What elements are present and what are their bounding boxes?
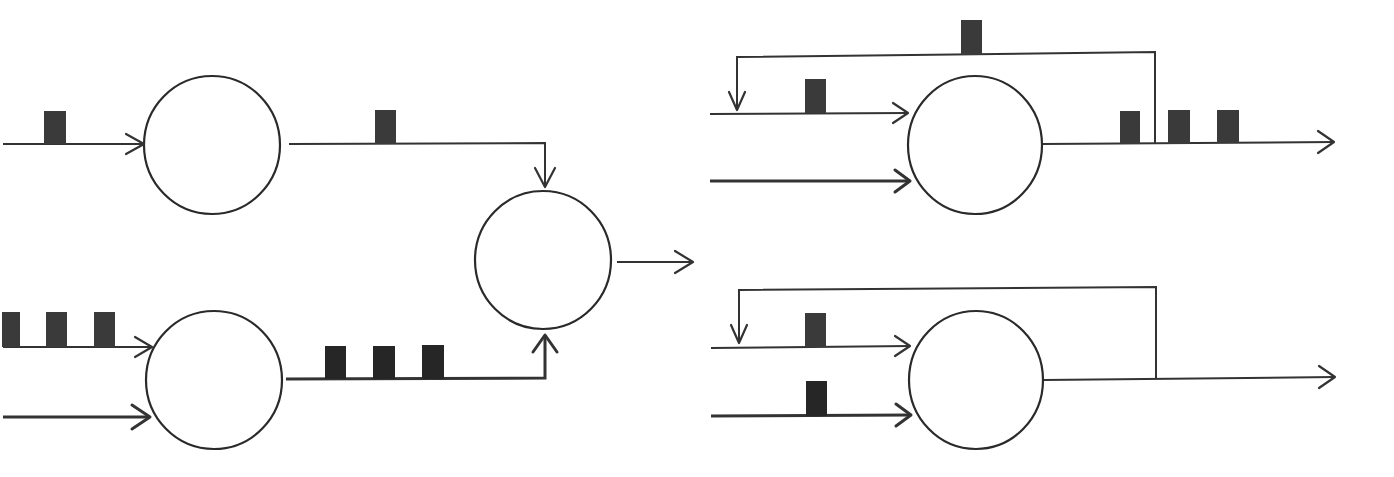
connection-n5-output (1044, 366, 1335, 388)
neuron-n2 (146, 311, 282, 449)
axon-line (1044, 377, 1335, 380)
axon-line (289, 143, 545, 187)
right-top-network (710, 20, 1334, 214)
connection-input-n5-a (711, 313, 910, 356)
neuron-n5 (909, 311, 1043, 449)
connection-input-n4-a (710, 79, 908, 123)
spike (805, 313, 826, 347)
spike (1120, 111, 1140, 144)
spike (44, 111, 66, 144)
connection-input-n2-b (3, 405, 150, 429)
spike (375, 110, 396, 144)
right-bottom-network (711, 287, 1335, 449)
connection-input-n5-b (711, 381, 911, 426)
spike (961, 20, 982, 55)
spike (1217, 110, 1239, 143)
spike (325, 346, 346, 379)
neuron-n3 (475, 191, 611, 329)
neuron-n4 (908, 76, 1042, 214)
connection-input-n2-a (2, 312, 152, 357)
axon-line (710, 113, 908, 114)
connection-input-n1 (3, 111, 144, 154)
spike (422, 345, 444, 379)
connection-n4-output (1043, 110, 1334, 153)
connection-n3-output (617, 251, 693, 273)
spike (94, 312, 115, 347)
connection-n1-n3 (289, 110, 555, 187)
spike (2, 312, 20, 347)
spike (373, 346, 395, 379)
connection-n2-n3 (286, 335, 557, 379)
spike (1168, 110, 1190, 144)
spike (805, 79, 826, 113)
spike (806, 381, 827, 416)
left-network (2, 76, 693, 449)
spike (46, 312, 67, 347)
axon-line (286, 335, 545, 379)
connection-input-n4-b (710, 170, 910, 192)
neuron-n1 (144, 76, 280, 214)
spiking-network-diagram (0, 0, 1394, 477)
